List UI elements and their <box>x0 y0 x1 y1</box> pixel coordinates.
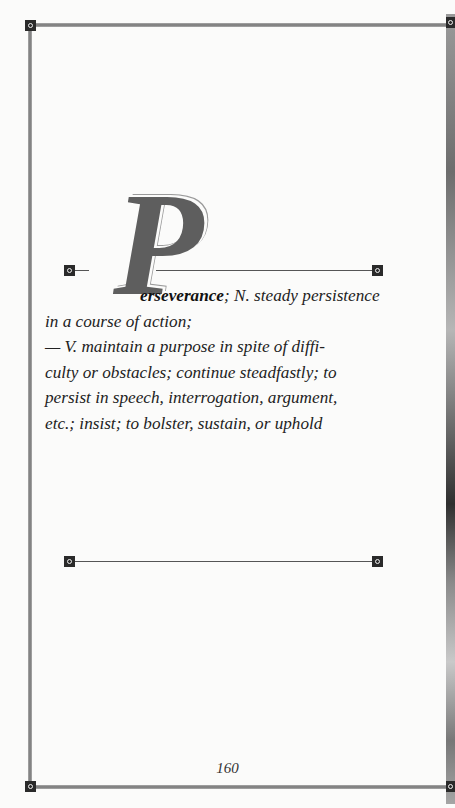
corner-marker-icon <box>25 20 36 31</box>
dictionary-definition: erseverance; N. steady persistence in a … <box>45 283 371 436</box>
corner-marker-icon <box>446 781 455 792</box>
frame-bottom-border <box>30 785 450 789</box>
book-page: P erseverance; N. steady persistence in … <box>0 0 455 808</box>
corner-marker-icon <box>446 17 455 28</box>
frame-left-border <box>28 25 32 787</box>
frame-top-border <box>30 23 450 27</box>
definition-line: — V. maintain a purpose in spite of diff… <box>45 334 371 360</box>
rule-marker-icon <box>64 556 75 567</box>
upper-rule-left <box>75 270 89 271</box>
definition-line: culty or obstacles; continue steadfastly… <box>45 360 371 386</box>
book-spine-edge <box>446 14 455 804</box>
definition-line: etc.; insist; to bolster, sustain, or up… <box>45 411 371 437</box>
definition-first-line: erseverance; N. steady persistence <box>45 283 371 309</box>
corner-marker-icon <box>25 781 36 792</box>
rule-marker-icon <box>64 265 75 276</box>
definition-line: persist in speech, interrogation, argume… <box>45 385 371 411</box>
rule-marker-icon <box>372 556 383 567</box>
definition-text: ; N. steady persistence <box>224 286 380 305</box>
definition-line: in a course of action; <box>45 309 371 335</box>
page-number: 160 <box>0 760 455 777</box>
rule-marker-icon <box>372 265 383 276</box>
headword: erseverance <box>140 286 224 305</box>
lower-rule <box>75 561 372 562</box>
